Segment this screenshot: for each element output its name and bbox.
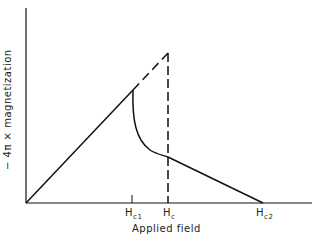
hc-text: H — [163, 207, 171, 218]
x-axis-label: Applied field — [132, 223, 201, 234]
type-i-dashed-rise — [133, 53, 168, 90]
tick-label-hc1: Hc1 — [125, 207, 142, 221]
hc1-subscript: c1 — [133, 213, 142, 221]
y-axis-label: − 4π × magnetization — [2, 49, 13, 170]
plot-area — [0, 0, 322, 243]
hc1-text: H — [125, 207, 133, 218]
type-ii-linear-decrease — [168, 157, 263, 203]
meissner-line — [26, 90, 133, 203]
type-ii-curve — [133, 90, 168, 157]
tick-label-hc2: Hc2 — [256, 207, 273, 221]
hc-subscript: c — [171, 213, 175, 221]
hc2-text: H — [256, 207, 264, 218]
hc2-subscript: c2 — [264, 213, 273, 221]
tick-label-hc: Hc — [163, 207, 175, 221]
